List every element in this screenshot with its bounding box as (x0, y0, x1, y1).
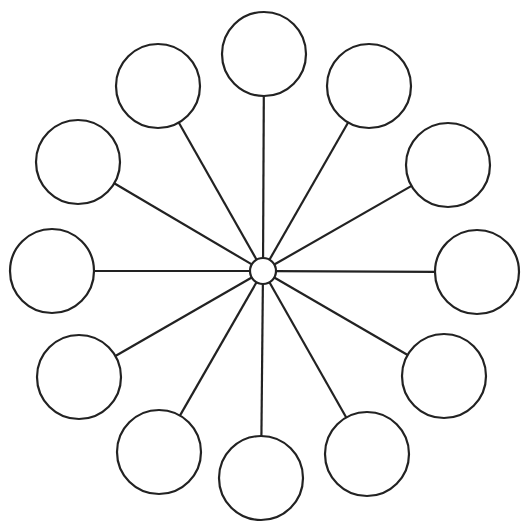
node-bottom (219, 436, 303, 520)
spoke-line (269, 122, 348, 259)
center-hub (250, 258, 276, 284)
spoke-line (269, 282, 346, 417)
spoke-line (115, 277, 251, 356)
node-right-lower (402, 334, 486, 418)
spoke-line (261, 284, 262, 436)
node-bottom-right (325, 412, 409, 496)
spider-diagram (0, 0, 525, 531)
node-top-right (327, 44, 411, 128)
spoke-line (179, 123, 257, 260)
node-right-upper (406, 123, 490, 207)
node-right (435, 230, 519, 314)
node-left-upper (36, 120, 120, 204)
node-top (222, 12, 306, 96)
node-left-lower (37, 335, 121, 419)
spoke-line (180, 282, 257, 415)
node-bottom-left (117, 410, 201, 494)
spoke-line (274, 186, 411, 265)
spoke-line (114, 183, 252, 264)
node-left (10, 229, 94, 313)
spoke-line (276, 271, 435, 272)
spoke-line (274, 278, 407, 355)
spoke-line (263, 96, 264, 258)
node-top-left (116, 44, 200, 128)
